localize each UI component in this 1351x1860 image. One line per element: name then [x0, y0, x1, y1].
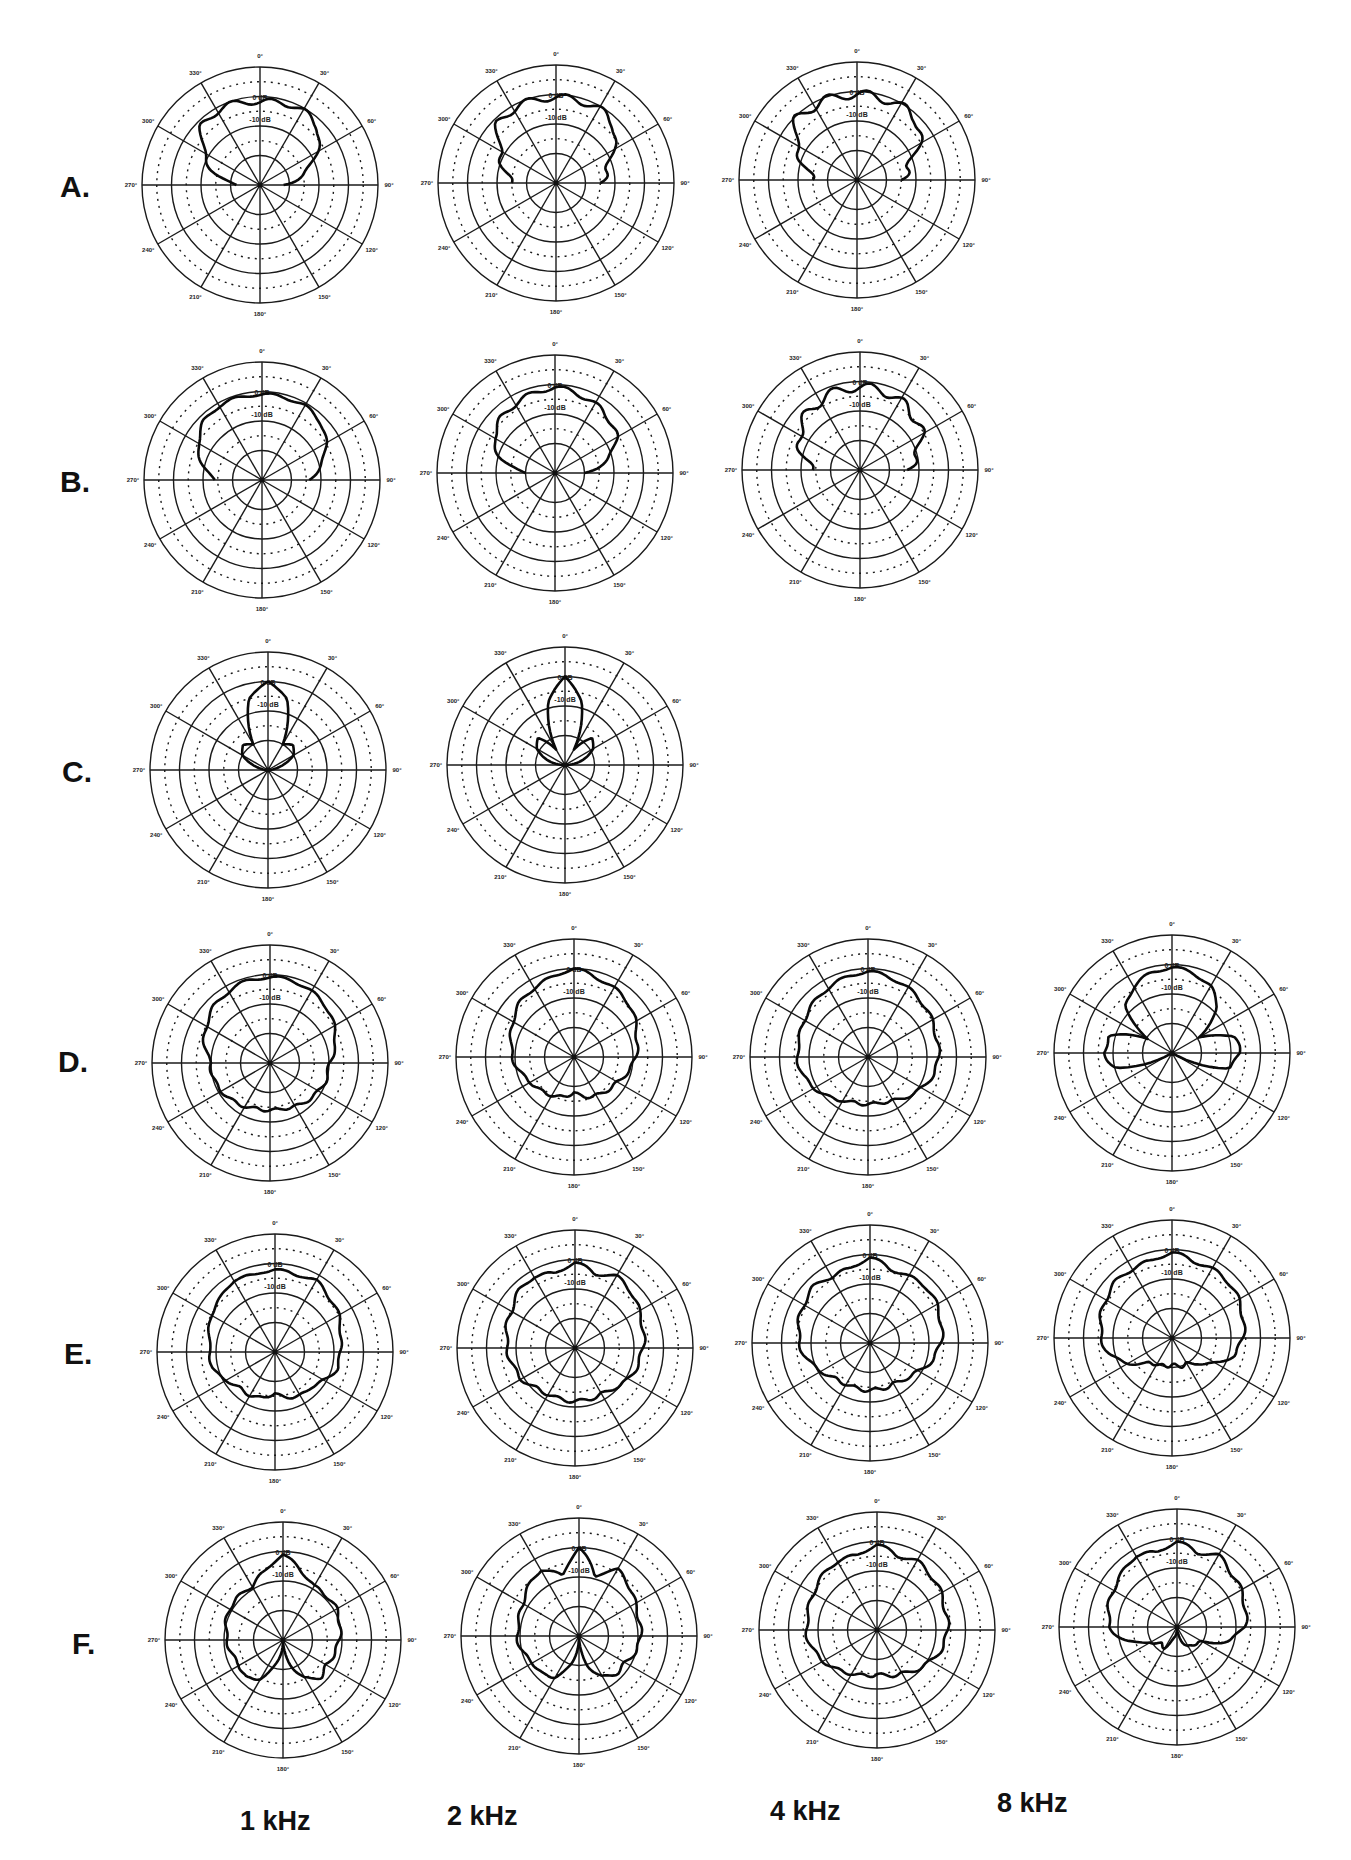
grid-spoke: [515, 955, 574, 1057]
angle-label: 30°: [937, 1515, 947, 1521]
angle-label: 330°: [204, 1237, 217, 1243]
angle-label: 180°: [854, 596, 867, 602]
angle-label: 300°: [750, 990, 763, 996]
grid-spoke: [268, 770, 370, 829]
angle-label: 270°: [125, 182, 138, 188]
angle-label: 180°: [871, 1756, 884, 1762]
angle-label: 180°: [864, 1469, 877, 1475]
angle-label: 90°: [1296, 1050, 1306, 1056]
angle-label: 330°: [1101, 1223, 1114, 1229]
grid-spoke: [870, 1343, 929, 1445]
angle-label: 300°: [457, 1281, 470, 1287]
polar-plot-b-1khz: 0°30°60°90°120°150°180°210°240°270°300°3…: [127, 348, 396, 612]
polar-plot-a-2khz: 0°30°60°90°120°150°180°210°240°270°300°3…: [421, 51, 690, 315]
grid-spoke: [275, 1293, 377, 1352]
angle-label: 180°: [269, 1478, 282, 1484]
angle-label: 210°: [485, 292, 498, 298]
grid-spoke: [1070, 1279, 1172, 1338]
db-label-minus10: -10 dB: [849, 401, 870, 408]
angle-label: 30°: [335, 1237, 345, 1243]
angle-label: 180°: [264, 1189, 277, 1195]
grid-spoke: [868, 1057, 970, 1116]
angle-label: 0°: [257, 53, 263, 59]
angle-label: 270°: [430, 762, 443, 768]
angle-label: 150°: [318, 294, 331, 300]
angle-label: 270°: [420, 470, 433, 476]
polar-plot-e-2khz: 0°30°60°90°120°150°180°210°240°270°300°3…: [440, 1216, 709, 1480]
grid-spoke: [860, 470, 962, 529]
angle-label: 60°: [672, 698, 682, 704]
angle-label: 270°: [444, 1633, 457, 1639]
angle-label: 0°: [552, 341, 558, 347]
freq-label-8khz: 8 kHz: [997, 1788, 1068, 1818]
angle-label: 150°: [328, 1172, 341, 1178]
angle-label: 60°: [967, 403, 977, 409]
angle-label: 270°: [1037, 1335, 1050, 1341]
angle-label: 60°: [686, 1569, 696, 1575]
angle-label: 150°: [935, 1739, 948, 1745]
angle-label: 240°: [142, 247, 155, 253]
grid-spoke: [574, 1057, 676, 1116]
angle-label: 90°: [699, 1345, 709, 1351]
grid-spoke: [565, 765, 667, 824]
grid-spoke: [868, 998, 970, 1057]
grid-spoke: [1177, 1568, 1279, 1627]
angle-label: 60°: [1284, 1560, 1294, 1566]
angle-label: 0°: [272, 1220, 278, 1226]
grid-spoke: [755, 180, 857, 239]
angle-label: 330°: [212, 1525, 225, 1531]
polar-plot-d-8khz: 0°30°60°90°120°150°180°210°240°270°300°3…: [1037, 921, 1306, 1185]
angle-label: 120°: [1283, 1689, 1296, 1695]
angle-label: 240°: [457, 1410, 470, 1416]
angle-label: 120°: [983, 1692, 996, 1698]
angle-label: 150°: [1230, 1162, 1243, 1168]
grid-spoke: [270, 1004, 372, 1063]
angle-label: 180°: [277, 1766, 290, 1772]
grid-spoke: [1113, 1338, 1172, 1440]
angle-label: 210°: [786, 289, 799, 295]
angle-label: 0°: [280, 1508, 286, 1514]
grid-spoke: [209, 770, 268, 872]
angle-label: 150°: [614, 292, 627, 298]
grid-spoke: [1177, 1627, 1279, 1686]
frequency-labels: 1 kHz 2 kHz 4 kHz 8 kHz: [240, 1788, 1068, 1836]
grid-spoke: [454, 183, 556, 242]
db-label-minus10: -10 dB: [859, 1274, 880, 1281]
center-dot: [273, 1350, 278, 1355]
grid-spoke: [181, 1640, 283, 1699]
grid-spoke: [1172, 1338, 1274, 1397]
db-label-0: 0 dB: [267, 1261, 282, 1268]
grid-spoke: [877, 1571, 979, 1630]
angle-label: 120°: [685, 1698, 698, 1704]
angle-label: 90°: [1001, 1627, 1011, 1633]
angle-label: 240°: [759, 1692, 772, 1698]
angle-label: 300°: [1054, 986, 1067, 992]
angle-label: 60°: [390, 1573, 400, 1579]
angle-label: 30°: [1232, 938, 1242, 944]
angle-label: 120°: [1278, 1400, 1291, 1406]
polar-pattern-figure: 0°30°60°90°120°150°180°210°240°270°300°3…: [0, 0, 1351, 1860]
grid-spoke: [766, 998, 868, 1057]
db-label-minus10: -10 dB: [568, 1567, 589, 1574]
angle-label: 0°: [865, 925, 871, 931]
grid-spoke: [497, 81, 556, 183]
grid-spoke: [798, 180, 857, 282]
grid-spoke: [270, 1063, 329, 1165]
angle-label: 210°: [1106, 1736, 1119, 1742]
angle-label: 300°: [438, 116, 451, 122]
grid-spoke: [1070, 1338, 1172, 1397]
grid-spoke: [811, 1343, 870, 1445]
grid-spoke: [211, 961, 270, 1063]
angle-label: 210°: [797, 1166, 810, 1172]
angle-label: 90°: [680, 180, 690, 186]
angle-label: 90°: [984, 467, 994, 473]
grid-spoke: [579, 1577, 681, 1636]
center-dot: [260, 478, 265, 483]
angle-label: 210°: [191, 589, 204, 595]
angle-label: 240°: [152, 1125, 165, 1131]
row-label-f: F.: [72, 1627, 95, 1660]
grid-spoke: [268, 770, 327, 872]
row-label-e: E.: [64, 1337, 92, 1370]
grid-spoke: [158, 185, 260, 244]
angle-label: 0°: [576, 1504, 582, 1510]
